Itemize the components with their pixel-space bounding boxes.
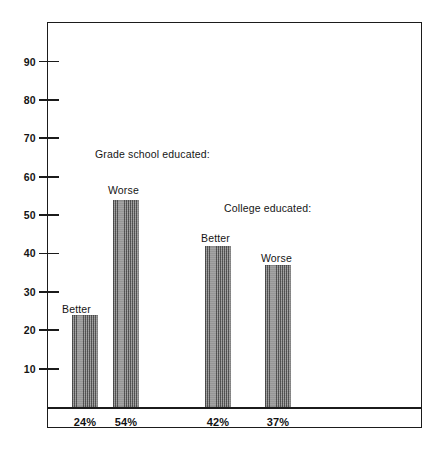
bar-label-college-worse: Worse bbox=[261, 252, 292, 264]
y-axis-label-wrap: 80 bbox=[0, 95, 36, 105]
bar-grade-school-better bbox=[72, 315, 98, 407]
bar-college-worse bbox=[265, 265, 291, 407]
x-value-bar3: 42% bbox=[193, 416, 243, 428]
group-label-grade-school: Grade school educated: bbox=[95, 148, 210, 160]
chart-title bbox=[62, 0, 412, 7]
y-axis-tick-label: 90 bbox=[10, 57, 36, 67]
plot-frame bbox=[47, 22, 422, 428]
y-axis-tick-label: 50 bbox=[10, 210, 36, 220]
y-axis-tick-label: 40 bbox=[10, 248, 36, 258]
bar-label-college-better: Better bbox=[201, 232, 230, 244]
y-axis-tick bbox=[39, 61, 59, 63]
y-axis-tick bbox=[39, 214, 59, 216]
bar-college-better bbox=[205, 246, 231, 407]
y-axis-label-wrap: 50 bbox=[0, 210, 36, 220]
y-axis-tick-label: 30 bbox=[10, 287, 36, 297]
y-axis-tick bbox=[39, 99, 59, 101]
bar-label-grade-school-better: Better bbox=[62, 303, 91, 315]
bar-label-grade-school-worse: Worse bbox=[108, 184, 139, 196]
bar-chart: 908070605040302010 Grade school educated… bbox=[0, 0, 443, 451]
x-axis-baseline bbox=[48, 407, 421, 409]
y-axis-tick-label: 80 bbox=[10, 95, 36, 105]
y-axis-tick bbox=[39, 253, 59, 255]
y-axis-label-wrap: 90 bbox=[0, 57, 36, 67]
y-axis-tick bbox=[39, 291, 59, 293]
bar-grade-school-worse bbox=[113, 200, 139, 407]
group-label-college: College educated: bbox=[224, 202, 311, 214]
y-axis-label-wrap: 70 bbox=[0, 133, 36, 143]
y-axis-tick bbox=[39, 368, 59, 370]
x-value-bar4: 37% bbox=[253, 416, 303, 428]
y-axis-tick-label: 20 bbox=[10, 325, 36, 335]
y-axis-tick bbox=[39, 329, 59, 331]
y-axis-label-wrap: 40 bbox=[0, 248, 36, 258]
y-axis-label-wrap: 60 bbox=[0, 172, 36, 182]
y-axis-label-wrap: 20 bbox=[0, 325, 36, 335]
y-axis-tick bbox=[39, 137, 59, 139]
y-axis-label-wrap: 30 bbox=[0, 287, 36, 297]
y-axis-tick-label: 60 bbox=[10, 172, 36, 182]
y-axis-tick bbox=[39, 176, 59, 178]
y-axis-tick-label: 10 bbox=[10, 364, 36, 374]
x-value-bar2: 54% bbox=[101, 416, 151, 428]
y-axis-label-wrap: 10 bbox=[0, 364, 36, 374]
y-axis-tick-label: 70 bbox=[10, 133, 36, 143]
